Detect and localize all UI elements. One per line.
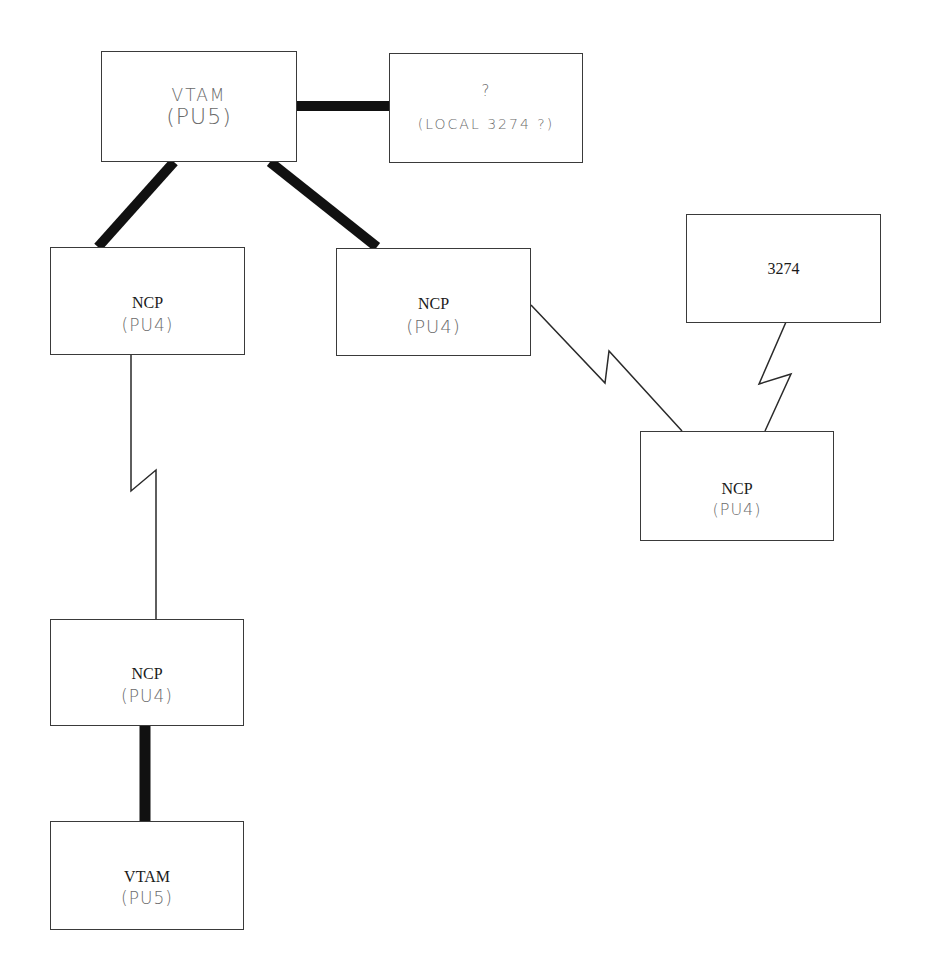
node-title: NCP: [51, 294, 244, 312]
node-vtam-bottom: VTAM (PU5): [50, 821, 244, 930]
node-subtitle: (PU4): [337, 316, 530, 337]
link-ncp-middle-to-ncp-right: [531, 305, 682, 431]
node-ncp-middle: NCP (PU4): [336, 248, 531, 356]
node-subtitle: (LOCAL 3274 ?): [390, 116, 582, 132]
node-subtitle: (PU4): [51, 686, 243, 706]
link-vtam-top-to-ncp-left: [98, 162, 174, 247]
node-unknown-local-3274: ? (LOCAL 3274 ?): [389, 53, 583, 163]
node-subtitle: (PU4): [51, 315, 244, 335]
node-subtitle: (PU4): [641, 500, 833, 519]
node-ncp-left: NCP (PU4): [50, 247, 245, 355]
node-title: 3274: [687, 260, 880, 278]
link-vtam-top-to-ncp-middle: [270, 162, 377, 247]
node-title: VTAM: [51, 868, 243, 886]
node-title: VTAM: [102, 85, 296, 105]
node-vtam-top: VTAM (PU5): [101, 51, 297, 162]
network-diagram: VTAM (PU5) ? (LOCAL 3274 ?) NCP (PU4) NC…: [0, 0, 927, 976]
node-3274: 3274: [686, 214, 881, 323]
node-ncp-right: NCP (PU4): [640, 431, 834, 541]
link-ncp-left-to-ncp-lower: [131, 354, 156, 619]
node-subtitle: (PU5): [51, 888, 243, 908]
node-ncp-lower: NCP (PU4): [50, 619, 244, 726]
link-3274-to-ncp-right: [759, 322, 791, 431]
node-title: NCP: [337, 295, 530, 313]
node-title: ?: [390, 82, 582, 100]
node-title: NCP: [641, 480, 833, 498]
node-subtitle: (PU5): [102, 104, 296, 129]
node-title: NCP: [51, 665, 243, 683]
